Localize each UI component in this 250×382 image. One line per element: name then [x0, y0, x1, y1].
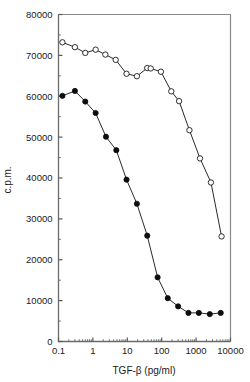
y-tick-label: 40000: [26, 172, 52, 183]
x-tick-label: 1: [90, 345, 95, 356]
data-point: [176, 98, 181, 103]
data-point: [145, 233, 150, 238]
data-point: [60, 40, 65, 45]
data-point: [72, 45, 77, 50]
data-point: [208, 180, 213, 185]
data-point: [158, 69, 163, 74]
data-point: [196, 310, 201, 315]
data-point: [176, 304, 181, 309]
y-tick-label: 80000: [26, 9, 52, 20]
x-tick-label: 10: [122, 345, 133, 356]
data-point: [218, 310, 223, 315]
x-tick-label: 0.1: [52, 345, 65, 356]
chart-figure: 0100002000030000400005000060000700008000…: [0, 0, 250, 382]
data-point: [219, 234, 224, 239]
data-point: [134, 201, 139, 206]
data-point: [83, 50, 88, 55]
data-point: [114, 148, 119, 153]
data-point: [207, 312, 212, 317]
data-point: [169, 89, 174, 94]
data-point: [186, 310, 191, 315]
x-tick-label: 1000: [186, 345, 207, 356]
data-point: [197, 156, 202, 161]
data-point: [165, 296, 170, 301]
data-point: [148, 66, 153, 71]
y-axis-tick-labels: 0100002000030000400005000060000700008000…: [26, 9, 52, 347]
chart-svg: 0100002000030000400005000060000700008000…: [0, 0, 250, 382]
data-point: [155, 275, 160, 280]
y-tick-label: 50000: [26, 132, 52, 143]
y-axis-title: c.p.m.: [2, 166, 13, 193]
y-tick-label: 60000: [26, 91, 52, 102]
data-point: [93, 47, 98, 52]
x-axis-title: TGF-β (pg/ml): [113, 365, 176, 376]
data-point: [134, 74, 139, 79]
y-tick-label: 70000: [26, 50, 52, 61]
data-point: [124, 71, 129, 76]
data-point: [113, 57, 118, 62]
data-point: [83, 99, 88, 104]
y-tick-label: 20000: [26, 254, 52, 265]
data-point: [93, 110, 98, 115]
x-tick-label: 100: [154, 345, 170, 356]
data-point: [103, 52, 108, 57]
y-tick-label: 30000: [26, 213, 52, 224]
data-point: [124, 177, 129, 182]
x-tick-label: 10000: [217, 345, 243, 356]
data-point: [187, 127, 192, 132]
data-point: [60, 93, 65, 98]
y-tick-label: 10000: [26, 295, 52, 306]
data-point: [103, 134, 108, 139]
data-point: [72, 88, 77, 93]
